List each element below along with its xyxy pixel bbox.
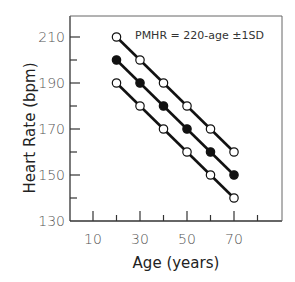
series-line bbox=[117, 83, 141, 106]
series-line bbox=[187, 152, 211, 175]
data-point-filled bbox=[112, 56, 120, 64]
data-point-filled bbox=[183, 125, 191, 133]
data-point-filled bbox=[159, 102, 167, 110]
series-line bbox=[140, 106, 164, 129]
series-line bbox=[187, 106, 211, 129]
data-point-open bbox=[112, 79, 120, 87]
x-tick-label: 10 bbox=[84, 231, 102, 247]
annotation: PMHR = 220-age ±1SD bbox=[135, 29, 264, 42]
y-tick-label: 150 bbox=[38, 167, 65, 183]
series-line bbox=[211, 175, 235, 198]
y-tick-label: 170 bbox=[38, 121, 65, 137]
y-tick-label: 130 bbox=[38, 213, 65, 229]
y-tick-label: 190 bbox=[38, 75, 65, 91]
series-line bbox=[211, 152, 235, 175]
series-line bbox=[140, 60, 164, 83]
series-line bbox=[164, 129, 188, 152]
series-line bbox=[211, 129, 235, 152]
data-point-open bbox=[136, 56, 144, 64]
series-line bbox=[187, 129, 211, 152]
data-point-open bbox=[230, 194, 238, 202]
chart: 21019017015013010305070Age (years)Heart … bbox=[0, 0, 295, 282]
series-line bbox=[164, 83, 188, 106]
series-line bbox=[117, 60, 141, 83]
series-line bbox=[140, 83, 164, 106]
data-point-filled bbox=[136, 79, 144, 87]
data-point-filled bbox=[230, 171, 238, 179]
data-point-open bbox=[136, 102, 144, 110]
data-point-open bbox=[206, 171, 214, 179]
x-tick-label: 70 bbox=[225, 231, 243, 247]
series-line bbox=[164, 106, 188, 129]
data-point-open bbox=[183, 102, 191, 110]
data-point-open bbox=[230, 148, 238, 156]
y-tick-label: 210 bbox=[38, 29, 65, 45]
data-point-open bbox=[159, 125, 167, 133]
data-point-open bbox=[112, 33, 120, 41]
data-point-open bbox=[206, 125, 214, 133]
x-axis-title: Age (years) bbox=[133, 254, 220, 272]
x-tick-label: 50 bbox=[178, 231, 196, 247]
data-point-open bbox=[183, 148, 191, 156]
y-axis-title: Heart Rate (bpm) bbox=[21, 62, 39, 193]
data-point-filled bbox=[206, 148, 214, 156]
x-tick-label: 30 bbox=[131, 231, 149, 247]
data-point-open bbox=[159, 79, 167, 87]
